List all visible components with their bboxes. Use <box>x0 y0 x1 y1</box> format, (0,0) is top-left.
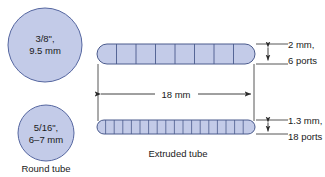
round-tube-caption: Round tube <box>21 163 70 174</box>
round-tube-large-circle: 3/8", 9.5 mm <box>8 8 82 82</box>
lower-tube-height-label: 1.3 mm, <box>288 115 322 126</box>
large-circle-label-inch: 3/8", <box>35 33 54 44</box>
tube-comparison-figure: 3/8", 9.5 mm 5/16", 6–7 mm Round tube <box>0 0 325 177</box>
extruded-tube-caption: Extruded tube <box>148 148 207 159</box>
upper-tube-height-label: 2 mm, <box>288 39 314 50</box>
round-tube-small-circle: 5/16", 6–7 mm <box>18 105 74 161</box>
small-circle-label-mm: 6–7 mm <box>29 134 63 145</box>
lower-tube-ports-label: 18 ports <box>288 131 323 142</box>
extruded-tube-lower <box>97 120 255 134</box>
upper-tube-ports-label: 6 ports <box>288 55 317 66</box>
large-circle-label-mm: 9.5 mm <box>29 45 61 56</box>
small-circle-label-inch: 5/16", <box>34 122 59 133</box>
extruded-tube-upper <box>97 44 255 64</box>
width-dimension-label: 18 mm <box>161 89 190 100</box>
